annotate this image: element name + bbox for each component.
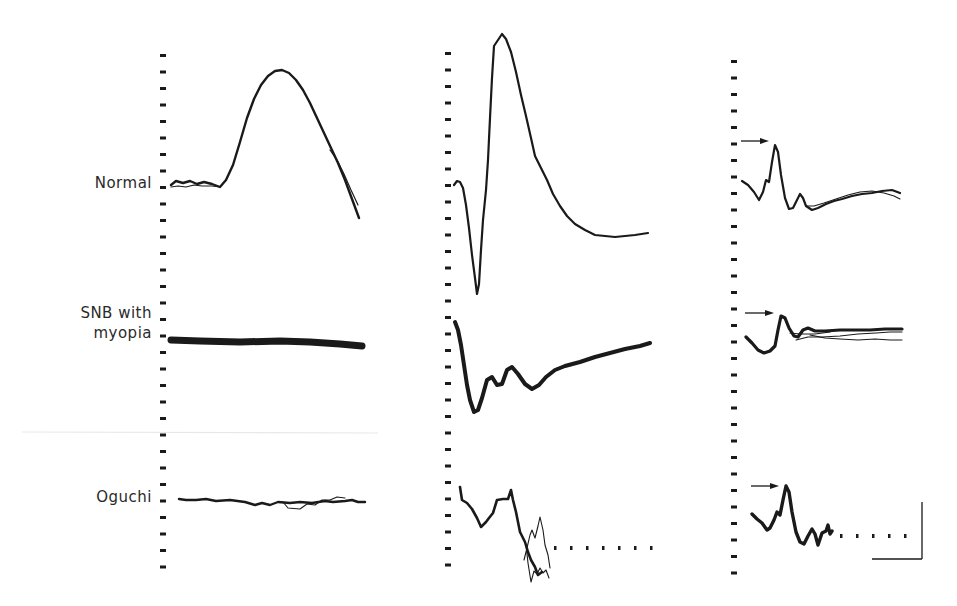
tick-mark xyxy=(160,549,166,552)
truncation-dot xyxy=(618,546,621,550)
tick-mark xyxy=(731,390,737,393)
tick-mark xyxy=(731,209,737,212)
truncation-dot xyxy=(840,534,843,538)
tick-mark xyxy=(445,102,451,105)
tick-mark xyxy=(445,316,451,319)
tick-mark xyxy=(445,250,451,253)
tick-mark xyxy=(160,186,166,189)
tick-mark xyxy=(731,159,737,162)
trace-snb-col3 xyxy=(746,316,902,353)
tick-mark xyxy=(160,137,166,140)
tick-mark xyxy=(445,481,451,484)
tick-mark xyxy=(160,434,166,437)
tick-column-1 xyxy=(160,54,166,569)
tick-mark xyxy=(160,450,166,453)
tick-mark xyxy=(445,69,451,72)
tick-mark xyxy=(445,234,451,237)
tick-mark xyxy=(160,417,166,420)
tick-mark xyxy=(731,176,737,179)
tick-mark xyxy=(160,368,166,371)
tick-mark xyxy=(731,324,737,327)
tick-mark xyxy=(445,184,451,187)
truncation-dot xyxy=(634,546,637,550)
tick-mark xyxy=(160,87,166,90)
truncation-dot xyxy=(650,546,653,550)
tick-mark xyxy=(445,531,451,534)
truncation-dots-col2 xyxy=(554,546,653,550)
tick-mark xyxy=(731,539,737,542)
erg-figure xyxy=(0,0,957,606)
tick-mark xyxy=(160,203,166,206)
tick-mark xyxy=(445,547,451,550)
tick-mark xyxy=(160,302,166,305)
tick-mark xyxy=(445,168,451,171)
tick-mark xyxy=(731,572,737,575)
tick-mark xyxy=(160,269,166,272)
tick-mark xyxy=(731,341,737,344)
tick-mark xyxy=(160,54,166,57)
tick-mark xyxy=(160,401,166,404)
truncation-dot xyxy=(872,534,875,538)
tick-mark xyxy=(731,357,737,360)
truncation-dot xyxy=(570,546,573,550)
trace-oguchi-col2 xyxy=(460,487,550,582)
tick-mark xyxy=(445,217,451,220)
tick-mark xyxy=(731,291,737,294)
tick-mark xyxy=(160,384,166,387)
tick-mark xyxy=(160,500,166,503)
tick-mark xyxy=(445,135,451,138)
tick-mark xyxy=(160,467,166,470)
tick-mark xyxy=(731,275,737,278)
tick-mark xyxy=(731,60,737,63)
trace-normal-col3 xyxy=(742,145,900,210)
tick-column-3 xyxy=(731,60,737,575)
tick-mark xyxy=(445,85,451,88)
tick-mark xyxy=(731,77,737,80)
trace-normal-col2 xyxy=(454,34,648,294)
tick-mark xyxy=(731,555,737,558)
arrow-icon-normal-peak xyxy=(741,138,769,144)
tick-mark xyxy=(445,432,451,435)
tick-mark xyxy=(445,267,451,270)
row-divider xyxy=(22,432,378,433)
tick-mark xyxy=(445,448,451,451)
truncation-dot xyxy=(888,534,891,538)
tick-mark xyxy=(445,300,451,303)
tick-mark xyxy=(445,366,451,369)
arrow-icon-oguchi-peak xyxy=(751,483,779,489)
tick-mark xyxy=(160,533,166,536)
tick-mark xyxy=(731,242,737,245)
tick-mark xyxy=(445,283,451,286)
tick-mark xyxy=(445,498,451,501)
tick-mark xyxy=(731,308,737,311)
truncation-dot xyxy=(602,546,605,550)
truncation-dot xyxy=(904,534,907,538)
tick-mark xyxy=(160,285,166,288)
trace-oguchi-col3 xyxy=(752,486,832,545)
tick-mark xyxy=(160,71,166,74)
trace-snb-col1 xyxy=(171,340,362,346)
tick-mark xyxy=(160,516,166,519)
calibration-bar xyxy=(872,502,922,559)
tick-mark xyxy=(445,514,451,517)
tick-mark xyxy=(445,52,451,55)
truncation-dot xyxy=(554,546,557,550)
tick-mark xyxy=(731,192,737,195)
tick-mark xyxy=(445,415,451,418)
tick-mark xyxy=(160,219,166,222)
tick-mark xyxy=(160,318,166,321)
truncation-dot xyxy=(856,534,859,538)
tick-mark xyxy=(731,225,737,228)
tick-mark xyxy=(731,407,737,410)
tick-mark xyxy=(731,93,737,96)
tick-mark xyxy=(160,566,166,569)
tick-mark xyxy=(160,104,166,107)
tick-mark xyxy=(731,489,737,492)
tick-mark xyxy=(445,465,451,468)
truncation-dots-col3 xyxy=(840,534,907,538)
tick-mark xyxy=(445,333,451,336)
tick-mark xyxy=(731,423,737,426)
tick-mark xyxy=(160,483,166,486)
tick-mark xyxy=(445,349,451,352)
tick-mark xyxy=(160,335,166,338)
